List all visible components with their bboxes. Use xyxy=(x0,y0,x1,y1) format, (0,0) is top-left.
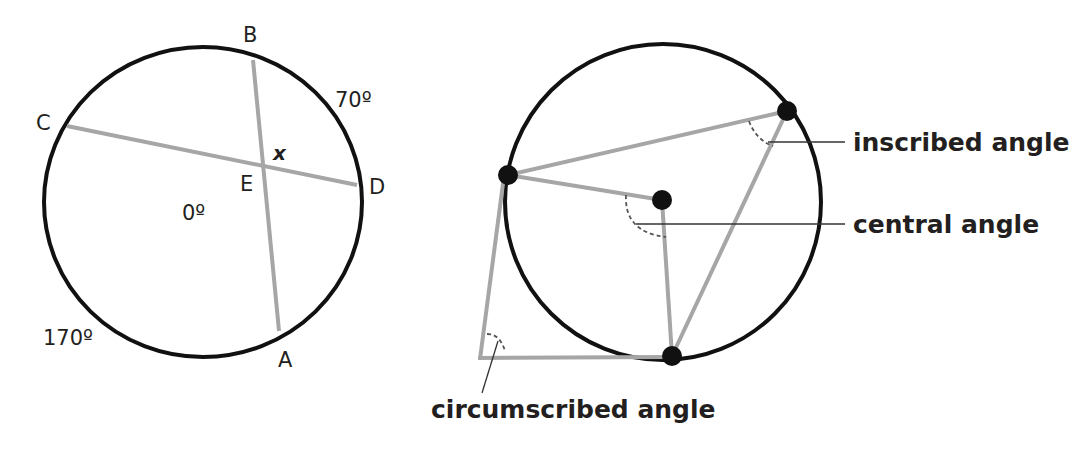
point-e-label: E xyxy=(240,172,253,196)
point-left xyxy=(498,165,518,185)
tangent-left xyxy=(480,176,504,359)
arc-center-label: 0º xyxy=(182,201,205,225)
point-b-label: B xyxy=(243,23,257,47)
geometry-figure: B C D E A x 70º 0º 170º inscr xyxy=(0,0,1089,452)
left-diagram: B C D E A x 70º 0º 170º xyxy=(36,23,385,372)
point-center xyxy=(652,190,672,210)
circumscribed-angle-label: circumscribed angle xyxy=(431,395,716,424)
point-d-label: D xyxy=(369,175,385,199)
point-bottom xyxy=(662,346,682,366)
right-diagram: inscribed angle central angle circumscri… xyxy=(431,44,1070,424)
tangent-bottom xyxy=(478,357,672,358)
circumscribed-leader xyxy=(482,341,498,393)
point-c-label: C xyxy=(36,111,51,135)
chord-left-to-top xyxy=(508,111,787,175)
chord-cd xyxy=(67,126,357,185)
arc-bd-label: 70º xyxy=(335,88,372,112)
point-a-label: A xyxy=(278,348,293,372)
arc-ca-label: 170º xyxy=(43,326,93,350)
inscribed-angle-label: inscribed angle xyxy=(853,128,1070,157)
chord-ba xyxy=(253,60,279,331)
point-top-right xyxy=(777,101,797,121)
angle-x-label: x xyxy=(272,141,287,165)
radius-left xyxy=(508,175,662,200)
central-angle-label: central angle xyxy=(853,210,1039,239)
